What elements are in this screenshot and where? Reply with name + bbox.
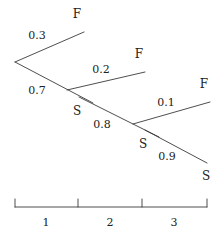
edge-probability-0.8: 0.8 (93, 119, 111, 130)
branch-root-f1 (15, 32, 84, 62)
axis-interval-label-1: 1 (43, 217, 50, 228)
probability-tree-figure: 0.3 0.7 0.2 0.8 0.1 0.9 F S F S F S 1 2 … (0, 0, 221, 238)
edge-probability-0.7: 0.7 (28, 85, 46, 96)
node-outcome-s3: S (202, 170, 210, 182)
node-outcome-f2: F (135, 48, 143, 60)
edge-probability-0.9: 0.9 (158, 151, 176, 162)
branch-s2-s3 (145, 130, 207, 163)
branch-root-s1 (15, 62, 93, 103)
edge-probability-0.1: 0.1 (157, 97, 175, 108)
axis-interval-label-3: 3 (171, 217, 178, 228)
edge-probability-0.2: 0.2 (92, 64, 110, 75)
node-outcome-f3: F (200, 78, 208, 90)
node-outcome-f1: F (73, 8, 81, 20)
edge-probability-0.3: 0.3 (28, 30, 46, 41)
node-outcome-s2: S (139, 138, 147, 150)
axis-interval-label-2: 2 (107, 217, 114, 228)
node-outcome-s1: S (73, 105, 81, 117)
